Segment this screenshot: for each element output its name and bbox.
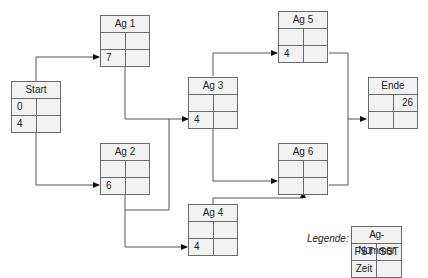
node-zeit — [369, 112, 393, 128]
node-title: Ag 4 — [189, 205, 237, 222]
node-sst — [213, 222, 237, 238]
node-title: Ag 6 — [279, 144, 327, 161]
edge-ag1-ag3 — [125, 65, 188, 119]
legend-label: Legende: — [307, 233, 349, 244]
node-fst — [279, 161, 303, 177]
node-ag4: Ag 4 4 — [188, 204, 238, 256]
legend-header: Ag-Nummer — [352, 227, 401, 244]
legend-sst: SST — [376, 244, 401, 260]
legend-box: Ag-Nummer FSTSST Zeit — [351, 226, 402, 278]
node-sst: 26 — [393, 95, 417, 111]
node-sst — [213, 95, 237, 111]
node-extra — [303, 46, 328, 62]
node-title: Start — [12, 82, 60, 99]
node-zeit: 7 — [101, 50, 125, 66]
node-sst — [303, 161, 327, 177]
node-zeit: 4 — [12, 116, 36, 132]
edge-ag2-ag4 — [125, 210, 187, 247]
node-title: Ag 5 — [279, 12, 327, 29]
node-fst — [189, 95, 213, 111]
node-zeit: 4 — [189, 239, 213, 255]
edge-ag6-ende — [329, 119, 348, 185]
node-sst — [303, 29, 327, 45]
edge-start-ag2 — [36, 132, 99, 185]
node-extra — [303, 178, 328, 194]
node-start: Start 0 4 — [11, 81, 61, 133]
edge-ag5-ende — [329, 53, 366, 119]
node-fst: 0 — [12, 99, 36, 115]
node-sst — [125, 33, 149, 49]
node-title: Ag 3 — [189, 78, 237, 95]
node-fst — [101, 33, 125, 49]
node-extra — [213, 112, 238, 128]
node-extra — [213, 239, 238, 255]
node-extra — [36, 116, 61, 132]
node-ende: Ende 26 — [368, 77, 418, 129]
node-ag1: Ag 1 7 — [100, 15, 150, 67]
node-ag6: Ag 6 — [278, 143, 328, 195]
node-fst — [369, 95, 393, 111]
legend-fst: FST — [352, 244, 376, 260]
node-zeit — [279, 178, 303, 194]
node-ag5: Ag 5 4 — [278, 11, 328, 63]
node-extra — [393, 112, 418, 128]
node-zeit: 4 — [279, 46, 303, 62]
node-fst — [279, 29, 303, 45]
node-title: Ende — [369, 78, 417, 95]
node-extra — [125, 50, 150, 66]
node-ag3: Ag 3 4 — [188, 77, 238, 129]
node-sst — [125, 161, 149, 177]
edge-ag3-ag5 — [213, 53, 277, 76]
node-extra — [125, 178, 150, 194]
node-title: Ag 1 — [101, 16, 149, 33]
node-fst — [101, 161, 125, 177]
node-zeit: 6 — [101, 178, 125, 194]
edge-start-ag1 — [36, 57, 99, 81]
legend-zeit: Zeit — [352, 261, 376, 277]
node-title: Ag 2 — [101, 144, 149, 161]
node-fst — [189, 222, 213, 238]
edge-ag3-ag6 — [213, 129, 277, 181]
legend-empty — [376, 261, 401, 277]
node-sst — [36, 99, 60, 115]
node-ag2: Ag 2 6 — [100, 143, 150, 195]
node-zeit: 4 — [189, 112, 213, 128]
